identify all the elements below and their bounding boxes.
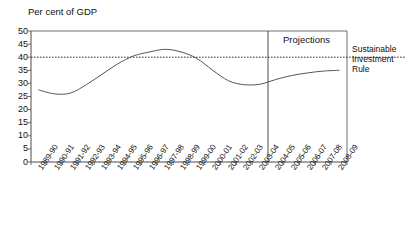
sustainable-investment-rule-label-line3: Rule [352,64,369,75]
sustainable-investment-rule-label-line2: Investment [352,54,394,65]
chart-container: Per cent of GDP 50454035302520151050 198… [0,0,406,235]
sustainable-investment-rule-label-line1: Sustainable [352,44,396,55]
data-series-line [39,49,339,94]
plot-area [0,0,406,235]
projections-label: Projections [283,34,330,45]
